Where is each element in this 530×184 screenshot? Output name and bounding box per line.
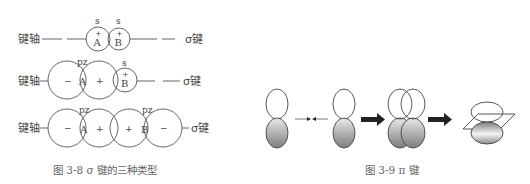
p-orbital-2 [333,89,355,148]
svg-text:−: − [64,76,72,86]
arrow-right-icon [428,113,452,126]
arrow-right-icon [361,113,385,126]
p-orbital-1 [266,89,288,148]
svg-text:pz: pz [142,105,153,115]
svg-text:−: − [64,123,72,133]
svg-text:σ键: σ键 [183,74,201,88]
overlapping-p-orbitals [388,89,425,148]
label-s-a: s [95,16,100,26]
label-s-b: s [116,16,121,26]
sigma-bond-figure: 键轴 s s + + A B σ键 键轴 pz s − [18,16,209,176]
svg-text:键轴: 键轴 [18,74,40,88]
axis-label: 键轴 [18,32,40,46]
svg-text:A: A [79,124,88,135]
svg-text:−: − [160,123,168,133]
approach-arrows-icon [295,117,328,121]
svg-text:σ键: σ键 [191,121,209,135]
row-s-s: 键轴 s s + + A B σ键 [18,16,203,51]
figure-caption-3-8: 图 3-8 σ 键的三种类型 [53,164,157,176]
svg-text:+: + [125,124,133,134]
row-p-s: 键轴 pz s − A + + B σ键 [18,57,201,99]
svg-text:+: + [96,124,104,134]
row-p-p: 键轴 pz pz − A + + B − σ键 [18,105,209,147]
svg-text:A: A [78,76,87,87]
bond-label: σ键 [185,32,203,46]
diagram-canvas: 键轴 s s + + A B σ键 键轴 pz s − [0,0,530,184]
svg-text:+: + [96,76,104,86]
svg-text:pz: pz [79,105,90,115]
figure-caption-3-9: 图 3-9 π 键 [365,164,420,176]
label-s: s [122,58,127,68]
pi-bond-result [463,102,515,144]
svg-text:B: B [141,124,148,135]
svg-text:键轴: 键轴 [18,121,40,135]
atom-b: B [115,37,122,48]
pi-bond-figure: 图 3-9 π 键 [266,89,515,176]
svg-text:B: B [121,78,128,89]
label-pz: pz [77,57,88,67]
atom-a: A [93,37,102,48]
